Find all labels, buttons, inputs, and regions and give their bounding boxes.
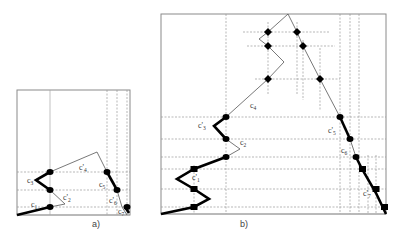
label-a-c5: c5 [99, 180, 106, 190]
vertex-square [191, 186, 198, 192]
label-b-c3p: c'3 [198, 121, 206, 131]
label-a-c4p: c'4 [79, 163, 87, 173]
label-a-c1: c1 [31, 200, 38, 210]
vertex-dot [353, 154, 360, 160]
label-b-c5p: c'5 [328, 126, 336, 136]
panel-a: c1 c'2 c3 c'4 c5 c'6 c7 a) [17, 90, 131, 229]
vertex-diamond [293, 28, 301, 36]
vertex-dot [337, 114, 344, 120]
vertex-square [381, 204, 388, 210]
label-b-c6: c6 [341, 146, 348, 156]
vertex-dot [47, 187, 54, 193]
vertex-square [359, 166, 366, 172]
segment-c3p [214, 117, 226, 139]
vertex-dot [347, 136, 354, 142]
segment-c3 [36, 172, 50, 190]
vertex-square [191, 204, 198, 210]
segment-c5p [340, 117, 350, 139]
segment-c2 [226, 139, 240, 157]
label-b-c4: c4 [250, 101, 257, 111]
label-b-c2: c2 [240, 138, 247, 148]
vertex-diamond [316, 75, 324, 83]
panel-b: c'1 c2 c'3 c4 c'5 c6 c'7 b) [161, 14, 388, 229]
vertex-dot [114, 187, 121, 193]
label-a-c3: c3 [27, 176, 34, 186]
caption-b: b) [240, 219, 248, 229]
panel-b-frame [161, 14, 386, 214]
label-a-c2p: c'2 [63, 193, 71, 203]
caption-a: a) [92, 219, 100, 229]
label-a-c7: c7 [118, 207, 125, 217]
vertex-dot [47, 169, 54, 175]
vertex-square [373, 186, 380, 192]
vertex-dot [223, 136, 230, 142]
vertex-dot [104, 169, 111, 175]
label-b-c7p: c'7 [363, 189, 371, 199]
panel-b-vertices [191, 28, 389, 210]
label-a-c6p: c'6 [109, 196, 117, 206]
vertex-dot [47, 204, 54, 210]
vertex-dot [223, 154, 230, 160]
label-b-c1p: c'1 [192, 173, 200, 183]
panel-a-vertices [47, 169, 131, 210]
figure-canvas: c1 c'2 c3 c'4 c5 c'6 c7 a) [0, 0, 408, 247]
vertex-square [191, 166, 198, 172]
segment-c4-upper-chain [226, 14, 340, 117]
vertex-dot [223, 114, 230, 120]
vertex-dot [124, 204, 131, 210]
vertex-diamond [299, 42, 307, 50]
